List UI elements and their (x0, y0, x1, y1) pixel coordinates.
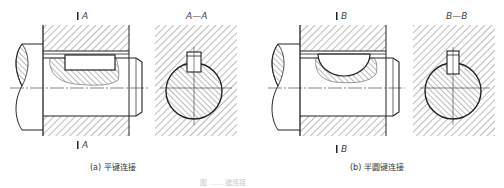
section-label-top-a: A (81, 11, 88, 21)
panel-a: A A A—A (a) 平键连接 (10, 11, 237, 172)
section-title-a: A—A (185, 11, 207, 21)
caption-a: (a) 平键连接 (90, 162, 136, 172)
hub-bottom-b (300, 116, 386, 136)
section-label-top-b: B (341, 11, 347, 21)
section-mark-top-a (77, 12, 79, 20)
figure-caption: 图 …… 键连接 (200, 178, 246, 187)
section-label-bottom-a: A (81, 140, 88, 150)
section-label-bottom-b: B (341, 144, 347, 154)
panel-b: B B B—B (b) 半圆键连接 (268, 11, 495, 172)
caption-b: (b) 半圆键连接 (350, 162, 404, 172)
key-connection-diagram: A A A—A (a) 平键连接 (0, 0, 504, 188)
section-title-b: B—B (446, 11, 467, 21)
section-mark-top-b (336, 12, 338, 20)
section-mark-bottom-b (336, 145, 338, 153)
hub-top-a (43, 25, 129, 51)
hub-bottom-a (43, 116, 129, 136)
flat-key (65, 55, 115, 70)
hub-top-b (300, 25, 386, 51)
section-mark-bottom-a (77, 141, 79, 149)
